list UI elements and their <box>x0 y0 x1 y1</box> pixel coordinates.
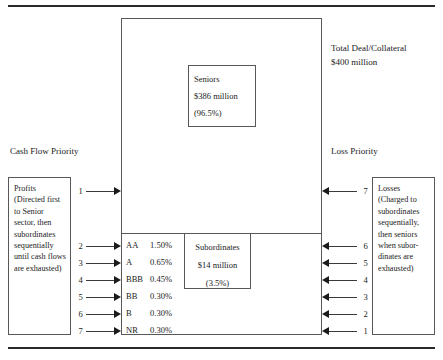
loss-arrow: 1 <box>322 325 370 337</box>
arrow-head-left-icon <box>322 327 329 335</box>
arrow-head-left-icon <box>322 259 329 267</box>
total-deal-caption: Total Deal/Collateral $400 million <box>331 41 407 69</box>
loss-arrow: 5 <box>322 257 370 269</box>
arrow-head-right-icon <box>114 327 121 335</box>
loss-arrow-number: 6 <box>361 241 370 251</box>
tranche-row: A0.65% <box>126 253 186 270</box>
loss-arrow: 6 <box>322 240 370 252</box>
arrow-shaft <box>86 263 114 264</box>
cash-flow-arrow-number: 6 <box>76 309 85 319</box>
arrow-shaft <box>329 191 357 192</box>
arrow-head-right-icon <box>114 259 121 267</box>
loss-arrow: 7 <box>322 185 370 197</box>
loss-priority-heading: Loss Priority <box>331 146 378 156</box>
diagram-canvas: Seniors $386 million (96.5%) Subordinate… <box>0 0 443 360</box>
arrow-head-left-icon <box>322 310 329 318</box>
cash-flow-arrow: 2 <box>76 240 121 252</box>
arrow-head-left-icon <box>322 293 329 301</box>
cash-flow-arrow: 6 <box>76 308 121 320</box>
arrow-shaft <box>86 331 114 332</box>
top-rule <box>8 5 435 7</box>
arrow-head-right-icon <box>114 310 121 318</box>
tranche-table: AA1.50%A0.65%BBB0.45%BB0.30%B0.30%NR0.30… <box>126 236 186 338</box>
loss-arrow: 3 <box>322 291 370 303</box>
arrow-shaft <box>329 314 357 315</box>
losses-body: (Charged to subordinates sequentially, t… <box>378 195 419 272</box>
subordinates-share: (3.5%) <box>185 274 250 292</box>
profits-box: Profits (Directed first to Senior sector… <box>8 177 71 335</box>
loss-arrow-number: 5 <box>361 258 370 268</box>
arrow-shaft <box>329 246 357 247</box>
arrow-head-right-icon <box>114 293 121 301</box>
cash-flow-arrow-number: 1 <box>76 186 85 196</box>
arrow-head-left-icon <box>322 242 329 250</box>
tranche-spread: 0.30% <box>150 291 184 301</box>
tranche-row: BB0.30% <box>126 287 186 304</box>
tranche-rating: AA <box>126 240 150 250</box>
tranche-spread: 0.45% <box>150 274 184 284</box>
arrow-head-left-icon <box>322 276 329 284</box>
seniors-share: (96.5%) <box>194 105 255 122</box>
cash-flow-arrow: 4 <box>76 274 121 286</box>
arrow-shaft <box>329 263 357 264</box>
tranche-spread: 0.30% <box>150 308 184 318</box>
cash-flow-arrow-number: 3 <box>76 258 85 268</box>
cash-flow-arrow: 1 <box>76 185 121 197</box>
arrow-shaft <box>86 246 114 247</box>
seniors-amount: $386 million <box>194 88 255 105</box>
losses-box: Losses (Charged to subordinates sequenti… <box>372 177 435 335</box>
arrow-head-right-icon <box>114 242 121 250</box>
subordinates-box: Subordinates $14 million (3.5%) <box>184 233 251 289</box>
profits-title: Profits <box>14 184 36 193</box>
seniors-box: Seniors $386 million (96.5%) <box>188 65 256 127</box>
tranche-row: AA1.50% <box>126 236 186 253</box>
profits-body: (Directed first to Senior sector, then s… <box>14 195 66 272</box>
losses-title: Losses <box>378 184 400 193</box>
bottom-rule <box>8 347 435 349</box>
arrow-shaft <box>329 297 357 298</box>
total-deal-line2: $400 million <box>331 55 407 69</box>
arrow-shaft <box>329 331 357 332</box>
loss-arrow: 4 <box>322 274 370 286</box>
arrow-shaft <box>329 280 357 281</box>
tranche-row: BBB0.45% <box>126 270 186 287</box>
cash-flow-arrow: 5 <box>76 291 121 303</box>
subordinates-amount: $14 million <box>185 256 250 274</box>
tranche-spread: 0.65% <box>150 257 184 267</box>
tranche-rating: A <box>126 257 150 267</box>
loss-arrow: 2 <box>322 308 370 320</box>
tranche-spread: 1.50% <box>150 240 184 250</box>
arrow-shaft <box>86 280 114 281</box>
cash-flow-arrow-number: 4 <box>76 275 85 285</box>
arrow-shaft <box>86 314 114 315</box>
arrow-shaft <box>86 297 114 298</box>
subordinates-label: Subordinates <box>185 238 250 256</box>
cash-flow-arrow: 7 <box>76 325 121 337</box>
tranche-rating: NR <box>126 325 150 335</box>
cash-flow-arrow-number: 5 <box>76 292 85 302</box>
arrow-head-left-icon <box>322 187 329 195</box>
tranche-row: B0.30% <box>126 304 186 321</box>
cash-flow-priority-heading: Cash Flow Priority <box>10 146 79 156</box>
cash-flow-arrow-number: 7 <box>76 326 85 336</box>
tranche-rating: BB <box>126 291 150 301</box>
arrow-head-right-icon <box>114 187 121 195</box>
tranche-rating: B <box>126 308 150 318</box>
seniors-label: Seniors <box>194 71 255 88</box>
arrow-head-right-icon <box>114 276 121 284</box>
tranche-rating: BBB <box>126 274 150 284</box>
loss-arrow-number: 1 <box>361 326 370 336</box>
cash-flow-arrow-number: 2 <box>76 241 85 251</box>
arrow-shaft <box>86 191 114 192</box>
loss-arrow-number: 2 <box>361 309 370 319</box>
loss-arrow-number: 3 <box>361 292 370 302</box>
cash-flow-arrow: 3 <box>76 257 121 269</box>
loss-arrow-number: 4 <box>361 275 370 285</box>
total-deal-line1: Total Deal/Collateral <box>331 41 407 55</box>
loss-arrow-number: 7 <box>361 186 370 196</box>
tranche-spread: 0.30% <box>150 325 184 335</box>
tranche-row: NR0.30% <box>126 321 186 338</box>
